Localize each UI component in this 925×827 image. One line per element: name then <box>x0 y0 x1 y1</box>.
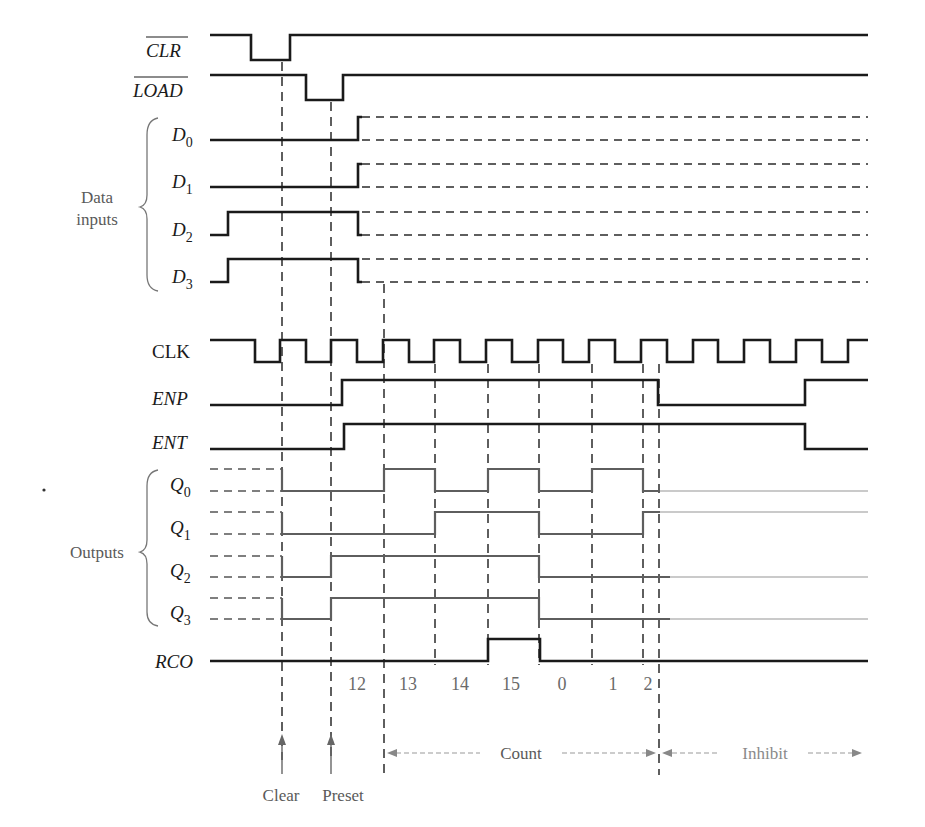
signal-labels: CLR LOAD D0 D1 D2 D3 CLK ENP ENT Q0 Q1 Q… <box>132 37 193 672</box>
load-waveform <box>210 75 868 100</box>
q1-label: Q1 <box>170 517 191 543</box>
preset-arrow-head-icon <box>327 734 335 745</box>
output-waveforms <box>210 469 868 661</box>
q0-label: Q0 <box>170 474 191 500</box>
q0-waveform <box>282 469 660 491</box>
timing-diagram: CLR LOAD D0 D1 D2 D3 CLK ENP ENT Q0 Q1 Q… <box>0 0 925 827</box>
rco-waveform <box>210 639 868 661</box>
stray-dot <box>42 488 45 491</box>
d0-waveform <box>210 117 362 140</box>
data-inputs-group: Data inputs <box>76 118 158 291</box>
outputs-brace <box>140 470 158 626</box>
clear-label: Clear <box>263 786 300 805</box>
count-value: 0 <box>558 674 567 694</box>
data-inputs-label-line2: inputs <box>76 210 118 229</box>
count-sequence: 12 13 14 15 0 1 2 <box>348 674 653 694</box>
d0-label: D0 <box>171 124 193 150</box>
count-value: 1 <box>609 674 618 694</box>
outputs-group: Outputs <box>70 470 158 626</box>
reference-lines <box>282 62 659 775</box>
enp-label: ENP <box>151 388 188 409</box>
q3-label: Q3 <box>170 602 191 628</box>
clr-label: CLR <box>146 37 188 61</box>
inhibit-label: Inhibit <box>742 744 788 763</box>
count-value: 12 <box>348 674 366 694</box>
d2-waveform <box>210 212 362 235</box>
ent-label: ENT <box>151 432 188 453</box>
d3-label: D3 <box>171 266 193 292</box>
svg-text:CLR: CLR <box>146 40 181 61</box>
clk-waveform <box>210 340 868 362</box>
data-inputs-brace <box>140 118 158 291</box>
d2-label: D2 <box>171 219 193 245</box>
rco-label: RCO <box>154 651 193 672</box>
outputs-label: Outputs <box>70 543 124 562</box>
clk-label: CLK <box>152 341 190 362</box>
count-value: 14 <box>451 674 469 694</box>
data-inputs-label-line1: Data <box>81 188 114 207</box>
d3-waveform <box>210 259 362 282</box>
d1-waveform <box>210 164 362 187</box>
count-left-arrowhead-icon <box>387 749 397 757</box>
annotations: Clear Preset Count Inhibit <box>263 734 862 805</box>
inhibit-right-arrowhead-icon <box>852 749 862 757</box>
count-value: 13 <box>399 674 417 694</box>
svg-text:LOAD: LOAD <box>132 80 183 101</box>
preset-label: Preset <box>322 786 364 805</box>
count-label: Count <box>500 744 542 763</box>
q2-label: Q2 <box>170 560 191 586</box>
clear-arrow-head-icon <box>278 734 286 745</box>
q1-waveform <box>282 512 660 534</box>
count-value: 15 <box>502 674 520 694</box>
d1-label: D1 <box>171 171 193 197</box>
inhibit-left-arrowhead-icon <box>662 749 672 757</box>
clr-waveform <box>210 35 868 60</box>
count-right-arrowhead-icon <box>646 749 656 757</box>
load-label: LOAD <box>132 77 188 101</box>
data-input-waveforms <box>210 117 868 282</box>
q3-waveform <box>282 598 670 619</box>
control-waveforms <box>210 35 868 100</box>
q2-waveform <box>282 556 670 577</box>
count-value: 2 <box>644 674 653 694</box>
